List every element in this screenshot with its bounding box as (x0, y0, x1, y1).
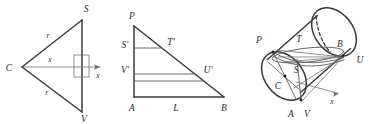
label-b: B (221, 103, 227, 113)
label-axis-arrow-x: x (95, 71, 100, 80)
hidden-edge-dashed (316, 16, 330, 52)
center-point-c (283, 74, 286, 77)
point-marker-p (272, 51, 275, 54)
label-s: S (84, 4, 89, 14)
label-b: B (337, 39, 343, 49)
label-s-prime: S' (122, 40, 130, 50)
label-c: C (6, 63, 13, 73)
label-p: P (255, 35, 262, 45)
label-u: U (357, 55, 365, 65)
figure-root: C S V r r x x P S' T' V' U' A L B (0, 0, 372, 124)
panel-right-cylinder: P T B U S C A V x (240, 0, 372, 124)
triangle-edge-c-s (22, 20, 82, 67)
label-u-prime: U' (204, 65, 214, 75)
point-marker-v (300, 99, 303, 102)
label-v: V (81, 114, 88, 124)
panel-middle-unrolled-triangle: P S' T' V' U' A L B (118, 0, 246, 124)
label-c: C (275, 81, 282, 91)
point-marker-b (342, 55, 345, 58)
triangle-edge-c-v (22, 67, 82, 112)
label-v-prime: V' (121, 65, 130, 75)
label-t: T (296, 34, 302, 44)
label-a: A (287, 109, 294, 119)
label-t-prime: T' (167, 37, 175, 47)
triangle-hypotenuse-p-b (134, 26, 224, 97)
label-l: L (172, 103, 178, 113)
label-radius-upper: r (47, 31, 50, 40)
label-p: P (128, 11, 135, 21)
panel-left-cross-section: C S V r r x x (0, 0, 118, 124)
label-radius-lower: r (46, 88, 49, 97)
label-v: V (304, 109, 311, 119)
label-s: S (294, 65, 299, 75)
label-axis-x: x (47, 55, 52, 64)
label-a: A (128, 103, 135, 113)
label-axis-arrow-x: x (329, 97, 334, 106)
